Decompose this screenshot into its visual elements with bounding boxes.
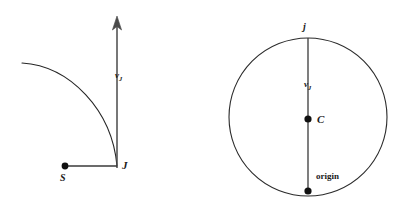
label-velocity-j-left: vJ (115, 71, 122, 82)
label-point-j: J (122, 160, 128, 171)
physics-figure: J S vJ j vJ C origin (0, 0, 403, 215)
label-point-s: S (60, 173, 66, 183)
velocity-subscript-right: J (308, 84, 311, 91)
velocity-subscript-left: J (119, 75, 122, 82)
label-velocity-j-right: vJ (304, 80, 311, 91)
left-trajectory-group (22, 16, 122, 169)
point-c-marker (304, 115, 311, 122)
point-origin-marker (304, 187, 311, 194)
transfer-trajectory-curve (22, 63, 117, 166)
label-point-c: C (317, 114, 324, 125)
label-origin: origin (316, 172, 339, 181)
point-s-marker (62, 163, 69, 170)
label-point-j-top: j (303, 22, 306, 32)
right-circle-group (229, 38, 387, 196)
